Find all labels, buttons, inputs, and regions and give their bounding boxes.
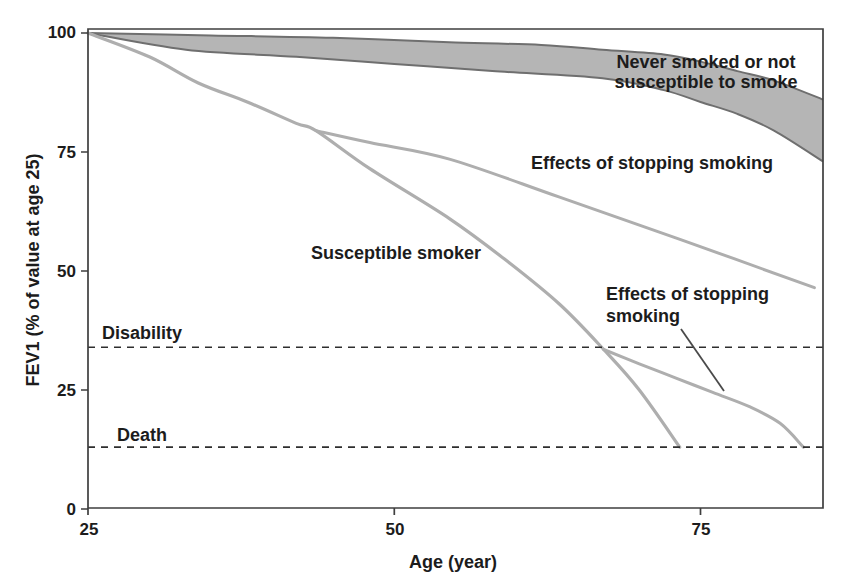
effects-stopping-bottom-line2: smoking [606,305,769,327]
effects-stopping-bottom-line1: Effects of stopping [606,283,769,305]
x-axis-title: Age (year) [409,552,497,573]
effects-stopping-bottom-label: Effects of stopping smoking [606,283,769,327]
x-tick-label-50: 50 [386,521,405,539]
disability-label: Disability [102,323,182,343]
effects-stopping-top-label: Effects of stopping smoking [531,153,773,173]
fletcher-fev1-chart: 100 75 50 25 0 25 50 75 Age (year) FEV1 … [0,0,846,587]
stop-smoking-late-curve [604,350,804,448]
x-tick-label-25: 25 [80,521,99,539]
never-smoked-label: Never smoked or not susceptible to smoke [614,52,797,92]
y-tick-label-100: 100 [20,24,76,42]
never-smoked-label-line1: Never smoked or not [614,52,797,72]
x-tick-label-75: 75 [692,521,711,539]
y-tick-label-0: 0 [20,501,76,519]
death-label: Death [117,425,167,445]
susceptible-smoker-label: Susceptible smoker [311,243,481,263]
susceptible-smoker-curve [88,33,680,447]
never-smoked-label-line2: susceptible to smoke [614,72,797,92]
y-axis-title: FEV1 (% of value at age 25) [23,153,44,386]
axis-tick-marks [81,33,701,515]
